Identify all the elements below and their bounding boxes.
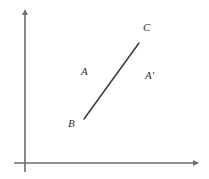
region-label-a-prime: A′ [145,70,154,81]
vertical-axis-arrow-icon [22,9,28,15]
diagram-canvas [0,0,209,179]
figure-container: C A A′ B [0,0,209,179]
point-label-c: C [143,22,150,33]
point-label-b: B [68,118,75,129]
horizontal-axis-arrow-icon [193,160,199,166]
region-label-a: A [81,66,88,77]
segment-bc [84,43,139,119]
